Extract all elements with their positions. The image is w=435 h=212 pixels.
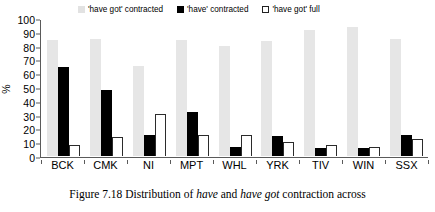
x-axis-tick-label: WIN	[342, 160, 385, 171]
bar	[315, 148, 326, 156]
bar	[390, 39, 401, 156]
y-axis-tick-label: 20	[23, 125, 35, 136]
bar	[155, 114, 166, 156]
figure-caption: Figure 7.18 Distribution of have and hav…	[0, 188, 435, 201]
bar	[283, 142, 294, 156]
x-axis-tick-mark	[41, 160, 42, 164]
y-axis-tick-label: 0	[29, 153, 35, 164]
bar-group	[128, 20, 171, 156]
y-axis-tick-label: 10	[23, 139, 35, 150]
bar	[69, 145, 80, 156]
chart-legend: 'have got' contracted'have' contracted'h…	[78, 3, 418, 17]
bar	[219, 46, 230, 156]
bar-group	[171, 20, 214, 156]
y-axis-tick-label: 60	[23, 70, 35, 81]
bar	[198, 135, 209, 156]
y-axis-tick-label: 100	[17, 15, 35, 26]
x-axis-tick-mark	[84, 160, 85, 164]
plot-area	[40, 20, 428, 158]
caption-suffix: contraction across	[279, 188, 365, 200]
bar	[401, 135, 412, 156]
bar	[326, 145, 337, 156]
bar-group	[342, 20, 385, 156]
bar	[358, 148, 369, 156]
x-axis-tick-label: CMK	[84, 160, 127, 171]
bar	[144, 135, 155, 156]
bar	[369, 147, 380, 156]
legend-swatch-icon	[177, 6, 184, 13]
x-axis-tick-mark	[170, 160, 171, 164]
x-axis-tick-mark	[385, 160, 386, 164]
legend-entry: 'have got' contracted	[78, 6, 163, 14]
bar-group	[256, 20, 299, 156]
legend-swatch-icon	[78, 6, 85, 13]
x-axis-tick-mark	[428, 160, 429, 164]
y-axis: % 1009080706050403020100	[0, 20, 40, 158]
bar	[112, 137, 123, 156]
legend-entry: 'have' contracted	[177, 6, 248, 14]
bar-group	[85, 20, 128, 156]
y-axis-tick-label: 80	[23, 42, 35, 53]
bar	[230, 147, 241, 156]
bar	[58, 67, 69, 156]
bar	[304, 30, 315, 156]
x-axis-tick-mark	[127, 160, 128, 164]
bar-group	[385, 20, 428, 156]
x-axis-tick-mark	[256, 160, 257, 164]
legend-label: 'have got' contracted	[88, 6, 163, 14]
y-axis-label: %	[1, 84, 12, 93]
bar	[176, 40, 187, 156]
bar-group	[42, 20, 85, 156]
bar	[101, 90, 112, 156]
y-axis-tick-label: 50	[23, 84, 35, 95]
x-axis-tick-label: MPT	[170, 160, 213, 171]
y-axis-tick-label: 70	[23, 56, 35, 67]
bar-groups	[42, 20, 428, 156]
bar	[241, 135, 252, 156]
x-axis-tick-label: YRK	[256, 160, 299, 171]
x-axis: BCKCMKNIMPTWHLYRKTIVWINSSX	[41, 160, 428, 178]
bar	[187, 112, 198, 156]
caption-prefix: Figure 7.18 Distribution of	[69, 188, 196, 200]
bar-group	[299, 20, 342, 156]
bar-group	[214, 20, 257, 156]
bar	[261, 41, 272, 156]
bar	[90, 39, 101, 156]
x-axis-tick-label: WHL	[213, 160, 256, 171]
bar	[347, 27, 358, 156]
bar	[133, 66, 144, 156]
x-axis-tick-label: BCK	[41, 160, 84, 171]
x-axis-tick-mark	[342, 160, 343, 164]
y-axis-tick-label: 40	[23, 98, 35, 109]
legend-swatch-icon	[262, 6, 269, 13]
caption-italic-have-got: have got	[240, 188, 279, 200]
legend-entry: 'have got' full	[262, 6, 319, 14]
bar	[412, 139, 423, 156]
y-axis-tick-label: 30	[23, 111, 35, 122]
legend-label: 'have' contracted	[187, 6, 248, 14]
bar	[47, 40, 58, 156]
bar	[272, 136, 283, 156]
x-axis-tick-mark	[213, 160, 214, 164]
caption-middle: and	[218, 188, 240, 200]
caption-italic-have: have	[196, 188, 218, 200]
figure-container: 'have got' contracted'have' contracted'h…	[0, 0, 435, 212]
x-axis-tick-mark	[299, 160, 300, 164]
x-axis-tick-label: SSX	[385, 160, 428, 171]
x-axis-tick-label: TIV	[299, 160, 342, 171]
x-axis-tick-label: NI	[127, 160, 170, 171]
y-axis-tick-label: 90	[23, 29, 35, 40]
legend-label: 'have got' full	[272, 6, 319, 14]
